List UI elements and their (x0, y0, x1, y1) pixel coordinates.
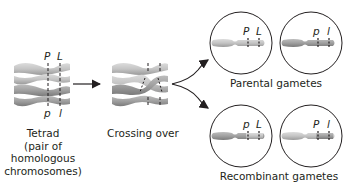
gene-label-p: p (43, 107, 51, 119)
tetrad-label-line: chromosomes) (2, 165, 84, 178)
crossing-over-chromosomes (112, 63, 168, 106)
crossing-over-label: Crossing over (100, 127, 186, 140)
arrow-to-recombinant (172, 84, 208, 108)
recombinant-gamete-1 (210, 105, 272, 167)
allele-label: p (242, 118, 250, 130)
allele-label: p (312, 25, 320, 37)
parental-gamete-1 (210, 12, 272, 74)
tetrad-label-line: homologous (2, 152, 84, 165)
gene-label-P: P (44, 50, 51, 62)
allele-label: l (327, 25, 330, 37)
gene-label-l: l (59, 107, 62, 119)
tetrad-chromosomes (14, 63, 70, 107)
gene-label-L: L (57, 50, 63, 62)
allele-label: l (327, 118, 330, 130)
parental-gamete-2 (280, 12, 342, 74)
recombinant-gamete-2 (280, 105, 342, 167)
allele-label: L (256, 25, 262, 37)
tetrad-label-line: Tetrad (2, 127, 84, 140)
allele-label: L (256, 118, 262, 130)
allele-label: P (243, 25, 250, 37)
recombinant-gametes-label: Recombinant gametes (214, 170, 344, 183)
tetrad-label-line: (pair of (2, 140, 84, 153)
parental-gametes-label: Parental gametes (226, 77, 326, 90)
tetrad-label: Tetrad (pair of homologous chromosomes) (2, 127, 84, 177)
arrow-to-parental (172, 60, 208, 84)
allele-label: P (313, 118, 320, 130)
